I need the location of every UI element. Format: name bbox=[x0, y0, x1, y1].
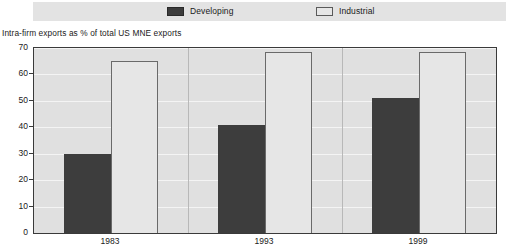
y-tick-label: 20 bbox=[19, 175, 28, 184]
y-tick-label: 60 bbox=[19, 69, 28, 78]
x-tick-label-1999: 1999 bbox=[409, 236, 428, 247]
legend-item-developing[interactable]: Developing bbox=[167, 7, 234, 16]
bar-industrial-1983[interactable] bbox=[111, 61, 158, 233]
y-tick-label: 0 bbox=[23, 228, 28, 237]
legend: Developing Industrial bbox=[33, 2, 506, 21]
legend-swatch-developing-icon bbox=[167, 7, 184, 16]
y-tick-label: 70 bbox=[19, 43, 28, 52]
gridline bbox=[34, 48, 496, 49]
x-tick-label-1983: 1983 bbox=[101, 236, 120, 247]
bar-industrial-1993[interactable] bbox=[265, 52, 312, 233]
y-tick-mark bbox=[29, 73, 34, 74]
y-tick-mark bbox=[29, 179, 34, 180]
y-axis-title: Intra-firm exports as % of total US MNE … bbox=[2, 28, 181, 38]
x-tick-label-1993: 1993 bbox=[255, 236, 274, 247]
legend-label-developing: Developing bbox=[190, 7, 234, 16]
bar-developing-1999[interactable] bbox=[372, 98, 419, 233]
y-tick-mark bbox=[29, 153, 34, 154]
y-tick-label: 50 bbox=[19, 95, 28, 104]
x-axis-tick-labels: 198319931999 bbox=[33, 236, 497, 250]
legend-label-industrial: Industrial bbox=[339, 7, 375, 16]
legend-swatch-industrial-icon bbox=[316, 7, 333, 16]
group-separator bbox=[342, 48, 343, 233]
bar-developing-1983[interactable] bbox=[64, 154, 111, 233]
y-axis-tick-labels: 010203040506070 bbox=[0, 47, 28, 234]
y-tick-label: 10 bbox=[19, 201, 28, 210]
bar-chart: 010203040506070 198319931999 bbox=[0, 40, 506, 251]
group-separator bbox=[188, 48, 189, 233]
bar-developing-1993[interactable] bbox=[218, 125, 265, 233]
y-tick-mark bbox=[29, 206, 34, 207]
y-tick-label: 30 bbox=[19, 148, 28, 157]
legend-item-industrial[interactable]: Industrial bbox=[316, 7, 375, 16]
y-tick-label: 40 bbox=[19, 122, 28, 131]
y-tick-mark bbox=[29, 100, 34, 101]
y-tick-mark bbox=[29, 126, 34, 127]
plot-area bbox=[33, 47, 497, 234]
bar-industrial-1999[interactable] bbox=[419, 52, 466, 233]
